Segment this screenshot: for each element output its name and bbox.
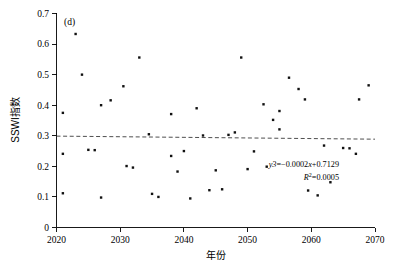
data-point (74, 33, 76, 35)
data-point (195, 107, 197, 109)
data-point (367, 84, 369, 86)
x-axis-ticks (57, 228, 376, 233)
data-point (227, 134, 229, 136)
data-point (62, 112, 64, 114)
data-point (221, 188, 223, 190)
x-axis-title: 年份 (206, 249, 226, 261)
data-point (234, 131, 236, 133)
data-point (358, 98, 360, 100)
y-tick-label-6: 0.6 (37, 39, 49, 49)
data-point (278, 128, 280, 130)
data-point (240, 56, 242, 58)
data-point (62, 192, 64, 194)
x-tick-label-1: 2030 (111, 235, 130, 245)
data-point (329, 181, 331, 183)
data-point (109, 99, 111, 101)
x-tick-label-0: 2020 (47, 235, 66, 245)
data-point (262, 103, 264, 105)
data-point (323, 144, 325, 146)
data-point (307, 189, 309, 191)
data-point (100, 196, 102, 198)
trend-line-dashed (57, 136, 376, 139)
data-point (355, 153, 357, 155)
scatter-plot-svg: 0 0.1 0.2 0.3 0.4 0.5 0.6 0.7 2020 2030 … (0, 0, 395, 270)
data-point (202, 134, 204, 136)
y-tick-label-0: 0 (44, 223, 49, 233)
data-point (272, 119, 274, 121)
data-point (208, 189, 210, 191)
chart-figure: 0 0.1 0.2 0.3 0.4 0.5 0.6 0.7 2020 2030 … (0, 0, 395, 270)
x-tick-label-5: 2070 (366, 235, 385, 245)
y-tick-label-5: 0.5 (37, 70, 49, 80)
r-squared-annotation: R2=0.0005 (303, 172, 339, 182)
data-point (94, 149, 96, 151)
y-axis-title: SSWI指数 (9, 97, 21, 143)
data-point (170, 113, 172, 115)
data-point (81, 73, 83, 75)
data-point (132, 166, 134, 168)
data-point (62, 153, 64, 155)
y-tick-label-1: 0.1 (37, 192, 49, 202)
data-point (342, 147, 344, 149)
data-point (189, 197, 191, 199)
x-axis-tick-labels: 2020 2030 2040 2050 2060 2070 (47, 235, 385, 245)
y-tick-label-4: 0.4 (37, 101, 49, 111)
equation-prefix: y3 (268, 160, 277, 169)
data-point (215, 169, 217, 171)
data-point (125, 165, 127, 167)
y-tick-label-3: 0.3 (37, 131, 49, 141)
x-tick-label-4: 2060 (302, 235, 321, 245)
y-tick-label-7: 0.7 (37, 9, 49, 19)
data-point (170, 155, 172, 157)
y-axis-ticks (52, 14, 57, 228)
equation-suffix: +0.7129 (312, 160, 339, 169)
data-point (297, 88, 299, 90)
data-point (87, 149, 89, 151)
regression-annotation: y3=−0.0002x+0.7129 R2=0.0005 (268, 160, 339, 182)
data-point (157, 196, 159, 198)
data-point (138, 56, 140, 58)
data-point (183, 150, 185, 152)
data-point (348, 147, 350, 149)
data-point (246, 168, 248, 170)
data-point (266, 165, 268, 167)
y-axis-tick-labels: 0 0.1 0.2 0.3 0.4 0.5 0.6 0.7 (37, 9, 49, 233)
y-tick-label-2: 0.2 (37, 162, 49, 172)
x-tick-label-2: 2040 (174, 235, 193, 245)
r-squared-value: =0.0005 (312, 173, 339, 182)
x-tick-label-3: 2050 (238, 235, 257, 245)
data-point (304, 98, 306, 100)
data-point (288, 77, 290, 79)
data-point (278, 110, 280, 112)
data-point (253, 150, 255, 152)
equation-body: =−0.0002 (276, 160, 308, 169)
data-point (148, 133, 150, 135)
regression-equation: y3=−0.0002x+0.7129 (268, 160, 339, 169)
data-point (122, 85, 124, 87)
data-point (151, 193, 153, 195)
panel-label: (d) (64, 17, 75, 28)
axis-lines (57, 13, 376, 228)
data-point (176, 170, 178, 172)
data-point (100, 104, 102, 106)
data-point (316, 194, 318, 196)
